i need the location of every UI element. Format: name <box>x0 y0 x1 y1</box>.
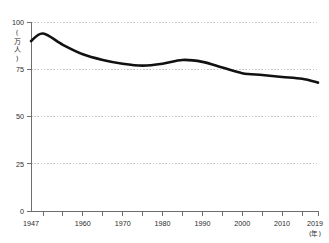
y-tick-marks <box>27 22 31 211</box>
x-tick-label-1947: 1947 <box>23 219 39 228</box>
x-tick-label-2019: 2019 <box>307 219 323 228</box>
y-axis-unit-char-1: 万 <box>14 38 21 46</box>
x-tick-labels: 1947 1960 1970 1980 1990 2000 2010 2019 <box>23 219 323 228</box>
chart-svg: 100 75 50 25 0 ( 万 人 ) <box>0 0 329 243</box>
series-line-births <box>31 33 318 82</box>
gridlines <box>31 22 318 164</box>
y-tick-label-75: 75 <box>16 65 24 74</box>
x-axis-unit-label: (年) <box>309 229 321 238</box>
x-tick-label-1980: 1980 <box>155 219 171 228</box>
y-tick-label-25: 25 <box>16 160 24 169</box>
y-tick-label-0: 0 <box>20 207 24 216</box>
x-tick-label-1970: 1970 <box>115 219 131 228</box>
y-tick-label-100: 100 <box>12 18 24 27</box>
line-chart: 100 75 50 25 0 ( 万 人 ) <box>0 0 329 243</box>
y-tick-label-50: 50 <box>16 112 24 121</box>
y-axis-unit-char-3: ) <box>16 55 19 63</box>
x-tick-label-2000: 2000 <box>234 219 250 228</box>
x-tick-label-2010: 2010 <box>274 219 290 228</box>
x-tick-label-1960: 1960 <box>75 219 91 228</box>
y-axis-unit-char-2: 人 <box>14 46 21 54</box>
x-tick-marks <box>43 211 318 216</box>
y-axis-unit-char-0: ( <box>16 29 19 37</box>
x-tick-label-1990: 1990 <box>194 219 210 228</box>
y-axis-unit-label: ( 万 人 ) <box>14 29 21 63</box>
